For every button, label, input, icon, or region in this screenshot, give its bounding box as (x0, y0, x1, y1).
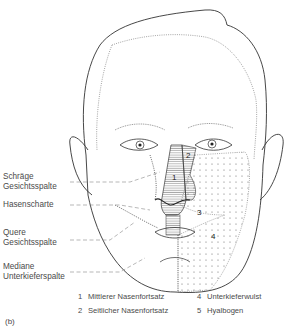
right-eye (195, 139, 232, 150)
label-line: Quere (3, 228, 57, 238)
label-line: Gesichtsspalte (3, 182, 57, 192)
label-line: Gesichtsspalte (3, 238, 57, 248)
hairline (112, 35, 257, 160)
label-line: Unterkieferspalte (3, 272, 65, 282)
label-hasenscharte: Hasenscharte (3, 200, 54, 210)
right-ear (260, 134, 283, 200)
region-number-2: 2 (186, 151, 191, 160)
label-quere-gesichtsspalte: Quere Gesichtsspalte (3, 228, 57, 247)
legend-item-5: 5Hyalbogen (197, 306, 243, 315)
legend-item-4: 4Unterkieferwulst (197, 292, 261, 301)
legend-item-2: 2Seitlicher Nasenfortsatz (78, 306, 168, 315)
region-number-3: 3 (197, 208, 202, 217)
label-mediane-unterkieferspalte: Mediane Unterkieferspalte (3, 262, 65, 281)
left-ear (70, 137, 92, 195)
label-line: Hasenscharte (3, 200, 54, 210)
region-number-4: 4 (211, 232, 216, 241)
label-line: Schräge (3, 172, 57, 182)
region-number-1: 1 (172, 173, 177, 182)
panel-label: (b) (5, 317, 15, 326)
legend-item-1: 1Mittlerer Nasenfortsatz (78, 292, 164, 301)
label-schraege-gesichtsspalte: Schräge Gesichtsspalte (3, 172, 57, 191)
label-line: Mediane (3, 262, 65, 272)
